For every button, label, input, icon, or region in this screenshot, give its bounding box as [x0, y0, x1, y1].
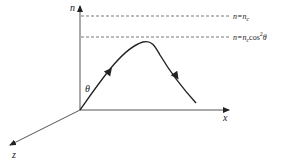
turning-point-label: n=nccos2θ [233, 31, 267, 43]
z-axis-label: z [11, 149, 16, 160]
ray-trajectory [80, 42, 196, 110]
z-axis [10, 110, 80, 145]
angle-theta-label: θ [85, 83, 90, 94]
diagram-canvas: n x z n=nc n=nccos2θ θ [0, 0, 281, 163]
critical-density-label: n=nc [233, 12, 249, 22]
x-axis-label: x [222, 112, 228, 123]
n-axis-label: n [70, 2, 75, 13]
